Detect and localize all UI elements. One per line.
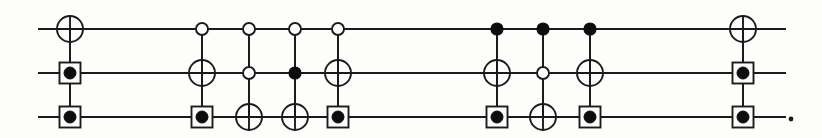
boxed-control-dot-icon[interactable] xyxy=(64,111,76,123)
boxed-control-dot-icon[interactable] xyxy=(584,111,596,123)
boxed-control-dot-icon[interactable] xyxy=(737,67,749,79)
gate-column-7[interactable] xyxy=(530,23,556,130)
boxed-control-dot-icon[interactable] xyxy=(737,111,749,123)
open-control-dot-icon[interactable] xyxy=(243,67,255,79)
filled-control-dot-icon[interactable] xyxy=(584,23,596,35)
gate-column-6[interactable] xyxy=(484,23,510,128)
filled-control-dot-icon[interactable] xyxy=(289,67,301,79)
boxed-control-dot-icon[interactable] xyxy=(491,111,503,123)
gate-column-8[interactable] xyxy=(577,23,603,128)
open-control-dot-icon[interactable] xyxy=(196,23,208,35)
circuit-canvas xyxy=(0,0,822,138)
open-control-dot-icon[interactable] xyxy=(243,23,255,35)
boxed-control-dot-icon[interactable] xyxy=(332,111,344,123)
wires-group xyxy=(38,29,786,117)
period-group xyxy=(789,117,794,122)
gate-column-2[interactable] xyxy=(189,23,215,128)
open-control-dot-icon[interactable] xyxy=(537,67,549,79)
gate-column-1[interactable] xyxy=(57,16,83,128)
gate-column-3[interactable] xyxy=(236,23,262,130)
filled-control-dot-icon[interactable] xyxy=(537,23,549,35)
open-control-dot-icon[interactable] xyxy=(289,23,301,35)
boxed-control-dot-icon[interactable] xyxy=(196,111,208,123)
boxed-control-dot-icon[interactable] xyxy=(64,67,76,79)
gate-column-5[interactable] xyxy=(325,23,351,128)
trailing-period-mark xyxy=(789,117,794,122)
filled-control-dot-icon[interactable] xyxy=(491,23,503,35)
open-control-dot-icon[interactable] xyxy=(332,23,344,35)
quantum-circuit-figure xyxy=(0,0,822,138)
gate-column-4[interactable] xyxy=(282,23,308,130)
gate-column-9[interactable] xyxy=(730,16,756,128)
